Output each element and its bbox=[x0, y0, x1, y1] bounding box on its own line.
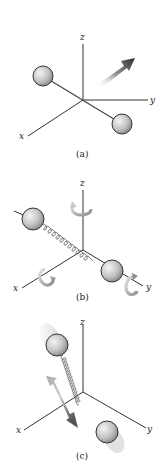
panel-b-rotation: z y x (b) bbox=[13, 178, 152, 302]
y-axis-label: y bbox=[149, 95, 156, 105]
y-axis-label: y bbox=[146, 424, 153, 434]
atom-sphere bbox=[96, 421, 118, 443]
x-axis-label: x bbox=[16, 425, 21, 435]
atom-sphere bbox=[33, 66, 53, 86]
z-axis-label: z bbox=[79, 178, 85, 188]
panel-a-translation: z y x (a) bbox=[19, 32, 156, 159]
atom-sphere bbox=[112, 114, 132, 134]
panel-caption: (c) bbox=[76, 451, 88, 461]
panel-caption: (b) bbox=[76, 292, 89, 302]
rotation-arrow-z-icon bbox=[70, 201, 91, 215]
y-axis-label: y bbox=[145, 282, 152, 292]
x-axis-label: x bbox=[19, 131, 24, 141]
translation-arrow-icon bbox=[98, 58, 135, 88]
panel-c-vibration: z y x (c) bbox=[16, 317, 153, 461]
panel-caption: (a) bbox=[76, 149, 88, 159]
z-axis-label: z bbox=[79, 32, 85, 42]
z-axis-label: z bbox=[79, 317, 85, 327]
spring-bond bbox=[43, 225, 93, 261]
y-axis bbox=[83, 392, 146, 428]
molecule-motion-diagram: z y x (a) z y x bbox=[0, 0, 166, 473]
spring-bond bbox=[61, 355, 80, 405]
atom-sphere bbox=[46, 334, 68, 356]
x-axis bbox=[28, 100, 83, 136]
rotation-arrow-y-icon bbox=[126, 273, 138, 294]
atom-sphere bbox=[101, 260, 123, 282]
x-axis-label: x bbox=[13, 283, 18, 293]
atom-sphere bbox=[22, 208, 44, 230]
